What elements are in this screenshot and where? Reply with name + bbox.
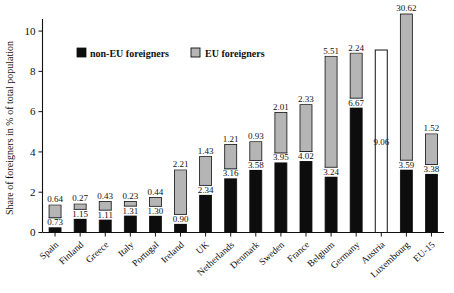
bar-segment-non-eu [325,167,337,232]
y-tick-label: 6 [30,105,36,117]
bar-segment-non-eu [250,160,262,232]
bar-segment-eu [325,56,337,167]
bar-value-label-non-eu: 0.73 [47,217,63,227]
x-axis-ticks [55,233,431,237]
bar-value-label-eu: 0.43 [97,191,113,201]
chart-legend: non-EU foreigners EU foreigners [77,48,265,59]
bar-value-label-eu: 2.33 [298,94,314,104]
x-tick-label: Italy [116,239,136,258]
stacked-bar-chart: Share of foreigners in % of total popula… [0,0,454,293]
y-axis-title: Share of foreigners in % of total popula… [4,41,15,215]
x-tick-label: Portugal [130,239,161,268]
bar-value-label: 9.06 [373,137,389,147]
bar-value-label-eu: 0.44 [148,187,164,197]
bar-value-label-eu: 1.52 [424,123,440,133]
bar-segment-non-eu [225,169,237,233]
y-tick-label: 2 [30,186,36,198]
bar-segment-non-eu [275,153,287,233]
legend-swatch-non-eu-icon [77,48,86,57]
legend-label-eu: EU foreigners [205,48,265,59]
y-axis-ticks: 0246810 [25,25,43,238]
bar-value-label-eu: 0.23 [122,191,138,201]
bar-value-label-non-eu: 4.02 [298,151,314,161]
x-tick-label: EU-15 [411,239,437,264]
bar-value-label-non-eu: 0.90 [173,214,189,224]
bar-value-label-eu: 0.64 [47,194,63,204]
bar-segment-eu [400,14,412,160]
x-tick-label: Ireland [159,239,186,265]
bar-segment-eu [200,157,212,186]
x-tick-label: Greece [84,240,111,265]
bar-value-label-non-eu: 1.31 [122,206,138,216]
bar-value-label-eu: 2.01 [273,102,289,112]
bar-value-label-eu: 0.27 [72,193,88,203]
bar-value-label-non-eu: 3.38 [424,164,440,174]
bar-value-label-eu: 30.62 [396,3,416,13]
bar-value-label-non-eu: 3.58 [248,160,264,170]
chart-container: Share of foreigners in % of total popula… [0,0,454,293]
bar-value-label-eu: 2.24 [348,43,364,53]
bar-value-label-non-eu: 1.30 [148,206,164,216]
bar-value-label-non-eu: 3.95 [273,152,289,162]
bar-segment-non-eu [350,98,362,232]
y-tick-label: 10 [25,25,37,37]
bar-value-label-non-eu: 1.11 [98,210,113,220]
bar-segment-non-eu [400,160,412,232]
bar-value-label-non-eu: 3.59 [398,160,414,170]
bar-value-label-non-eu: 2.34 [198,185,214,195]
bar-segment-eu [175,170,187,215]
bar-value-label-eu: 0.93 [248,131,264,141]
bar-segment-eu [275,112,287,152]
bar-segment-eu [300,105,312,152]
bar-segment-eu [425,134,437,165]
legend-label-non-eu: non-EU foreigners [90,48,169,59]
bar-segment-eu [49,205,61,218]
x-tick-label: UK [194,239,211,256]
bar-value-label-non-eu: 3.16 [223,168,239,178]
bar-value-label-eu: 5.51 [323,46,339,56]
bar-segment-eu [225,144,237,168]
bar-segment-non-eu [425,164,437,232]
bar-value-label-eu: 1.21 [223,134,239,144]
bar-value-label-non-eu: 6.67 [348,98,364,108]
bar-value-label-eu: 1.43 [198,146,214,156]
bar-segment-eu [250,142,262,161]
bar-segment-non-eu [300,152,312,233]
x-tick-label: Sweden [257,239,286,267]
category-labels: SpainFinlandGreeceItalyPortugalIrelandUK… [38,239,437,280]
bar-value-label-eu: 2.21 [173,159,189,169]
y-tick-label: 0 [30,226,36,238]
y-tick-label: 4 [30,146,36,158]
bar-segment-eu [350,53,362,98]
x-tick-label: Finland [57,239,85,266]
legend-swatch-eu-icon [191,48,200,57]
bar-value-label-non-eu: 1.15 [72,209,88,219]
y-tick-label: 8 [30,65,36,77]
bar-value-label-non-eu: 3.24 [323,167,339,177]
